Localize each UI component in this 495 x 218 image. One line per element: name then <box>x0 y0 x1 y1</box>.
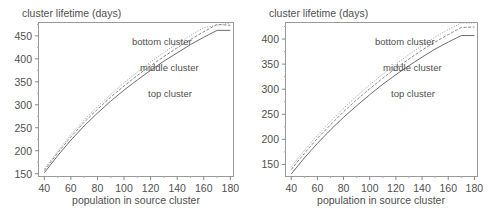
y-tick-label: 250 <box>261 108 279 120</box>
x-tick-label: 180 <box>222 182 240 194</box>
y-tick-label: 150 <box>261 158 279 170</box>
curve-middle-cluster <box>291 27 474 169</box>
left-panel-annotation-middle-cluster: middle cluster <box>140 62 199 73</box>
y-tick-label: 400 <box>14 53 32 65</box>
y-tick-label: 300 <box>14 99 32 111</box>
y-tick-label: 400 <box>261 33 279 45</box>
y-tick-label: 450 <box>14 30 32 42</box>
y-tick-label: 350 <box>14 76 32 88</box>
right-panel-y-ticks: 150200250300350400 <box>261 33 286 170</box>
right-panel-annotation-top-cluster: top cluster <box>391 88 435 99</box>
left-panel-annotation-top-cluster: top cluster <box>148 88 192 99</box>
right-panel-svg: cluster lifetime (days) 1502002503003504… <box>247 0 494 218</box>
x-tick-label: 160 <box>195 182 213 194</box>
right-panel-annotation-middle-cluster: middle cluster <box>383 62 442 73</box>
right-panel-y-axis-title: cluster lifetime (days) <box>269 7 368 19</box>
left-panel-annotation-bottom-cluster: bottom cluster <box>132 36 192 47</box>
y-tick-label: 200 <box>14 145 32 157</box>
x-tick-label: 60 <box>65 182 77 194</box>
y-tick-label: 250 <box>14 122 32 134</box>
left-panel-x-ticks: 406080100120140160180 <box>38 176 239 194</box>
x-tick-label: 60 <box>312 182 324 194</box>
left-panel-x-axis-title: population in source cluster <box>72 194 200 206</box>
left-panel-y-axis-title: cluster lifetime (days) <box>22 7 121 19</box>
left-panel: cluster lifetime (days) 1502002503003504… <box>0 0 247 218</box>
y-tick-label: 350 <box>261 58 279 70</box>
x-tick-label: 40 <box>38 182 50 194</box>
x-tick-label: 100 <box>361 182 379 194</box>
x-tick-label: 40 <box>285 182 297 194</box>
left-panel-svg: cluster lifetime (days) 1502002503003504… <box>0 0 247 218</box>
x-tick-label: 80 <box>338 182 350 194</box>
left-panel-y-ticks: 150200250300350400450 <box>14 30 39 180</box>
y-tick-label: 200 <box>261 133 279 145</box>
x-tick-label: 120 <box>142 182 160 194</box>
x-tick-label: 80 <box>92 182 104 194</box>
y-tick-label: 300 <box>261 83 279 95</box>
x-tick-label: 160 <box>439 182 457 194</box>
two-panel-line-chart-figure: cluster lifetime (days) 1502002503003504… <box>0 0 495 218</box>
x-tick-label: 120 <box>387 182 405 194</box>
y-tick-label: 150 <box>14 168 32 180</box>
curve-top-cluster <box>44 30 230 172</box>
x-tick-label: 180 <box>466 182 484 194</box>
left-panel-minor-ticks <box>37 24 217 178</box>
x-tick-label: 140 <box>168 182 186 194</box>
x-tick-label: 100 <box>115 182 133 194</box>
right-panel-x-axis-title: population in source cluster <box>317 194 445 206</box>
right-panel: cluster lifetime (days) 1502002503003504… <box>247 0 494 218</box>
curve-top-cluster <box>291 36 474 174</box>
right-panel-x-ticks: 406080100120140160180 <box>285 176 483 194</box>
right-panel-annotation-bottom-cluster: bottom cluster <box>375 36 435 47</box>
x-tick-label: 140 <box>413 182 431 194</box>
